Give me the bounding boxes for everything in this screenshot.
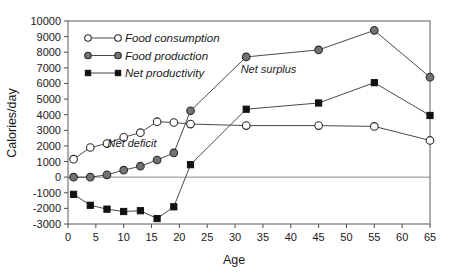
legend-marker <box>85 70 90 75</box>
chart-annotation: Net surplus <box>241 63 297 75</box>
x-tick-label: 5 <box>93 231 99 243</box>
data-point-marker <box>170 119 178 127</box>
y-axis-title: Calories/day <box>5 88 19 158</box>
data-point-marker <box>103 171 111 179</box>
legend-marker <box>115 35 122 42</box>
data-point-marker <box>426 73 434 81</box>
y-tick-label: -2000 <box>33 202 61 214</box>
data-point-marker <box>243 106 249 112</box>
data-point-marker <box>315 122 323 130</box>
x-tick-label: 25 <box>201 231 213 243</box>
data-point-marker <box>187 107 195 115</box>
y-tick-label: 4000 <box>37 109 61 121</box>
data-point-marker <box>153 118 161 126</box>
y-tick-label: 9000 <box>37 31 61 43</box>
x-tick-label: 15 <box>145 231 157 243</box>
data-point-marker <box>371 27 379 35</box>
x-tick-label: 0 <box>65 231 71 243</box>
data-point-marker <box>371 80 377 86</box>
data-point-marker <box>121 208 127 214</box>
y-tick-label: 0 <box>55 171 61 183</box>
y-tick-label: 5000 <box>37 93 61 105</box>
x-tick-label: 45 <box>312 231 324 243</box>
data-point-marker <box>187 162 193 168</box>
data-point-marker <box>315 46 323 54</box>
y-tick-label: -3000 <box>33 218 61 230</box>
x-tick-label: 60 <box>396 231 408 243</box>
data-point-marker <box>87 202 93 208</box>
data-point-marker <box>137 129 145 137</box>
legend-marker <box>115 52 122 59</box>
x-tick-label: 30 <box>229 231 241 243</box>
data-point-marker <box>120 166 128 174</box>
chart-annotation: Net deficit <box>108 137 158 149</box>
legend-marker <box>85 35 92 42</box>
data-point-marker <box>171 204 177 210</box>
y-tick-label: -1000 <box>33 187 61 199</box>
legend-label: Food production <box>125 50 208 62</box>
x-axis-title: Age <box>223 253 245 267</box>
x-tick-label: 35 <box>257 231 269 243</box>
y-tick-label: 3000 <box>37 124 61 136</box>
y-tick-label: 6000 <box>37 77 61 89</box>
y-tick-label: 10000 <box>30 15 61 27</box>
legend-label: Food consumption <box>125 32 220 44</box>
legend-marker <box>85 52 92 59</box>
data-point-marker <box>426 137 434 145</box>
x-tick-label: 50 <box>340 231 352 243</box>
data-point-marker <box>86 173 94 181</box>
y-tick-label: 1000 <box>37 156 61 168</box>
data-point-marker <box>86 144 94 152</box>
data-point-marker <box>153 156 161 164</box>
data-point-marker <box>316 100 322 106</box>
x-tick-label: 40 <box>285 231 297 243</box>
data-point-marker <box>104 206 110 212</box>
x-tick-label: 65 <box>424 231 436 243</box>
data-point-marker <box>242 53 250 61</box>
data-point-marker <box>170 149 178 157</box>
y-tick-label: 2000 <box>37 140 61 152</box>
chart-container: -3000-2000-10000100020003000400050006000… <box>0 0 453 275</box>
calories-per-day-vs-age-line-chart: -3000-2000-10000100020003000400050006000… <box>0 0 453 275</box>
data-point-marker <box>137 208 143 214</box>
data-point-marker <box>187 120 195 128</box>
legend-marker <box>115 70 120 75</box>
x-tick-label: 10 <box>118 231 130 243</box>
data-point-marker <box>70 191 76 197</box>
y-tick-label: 8000 <box>37 46 61 58</box>
data-point-marker <box>242 122 250 130</box>
y-tick-label: 7000 <box>37 62 61 74</box>
data-point-marker <box>427 112 433 118</box>
data-point-marker <box>70 173 78 181</box>
data-point-marker <box>371 123 379 131</box>
data-point-marker <box>154 215 160 221</box>
data-point-marker <box>137 162 145 170</box>
x-tick-label: 55 <box>368 231 380 243</box>
data-point-marker <box>70 155 78 163</box>
legend-label: Net productivity <box>125 67 206 79</box>
x-tick-label: 20 <box>173 231 185 243</box>
